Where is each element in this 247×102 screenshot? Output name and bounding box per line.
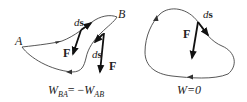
upper-path-direction-arrow-icon (55, 41, 61, 44)
right-caption: W=0 (177, 83, 201, 97)
closed-loop-curve (145, 9, 234, 78)
upper-ds-text: ds (74, 16, 85, 28)
point-a-label: A (14, 34, 23, 48)
work-path-diagram: A B F F WBA= −WAB F W=0 ds ds ds (0, 0, 247, 102)
lower-ds-text: ds (92, 48, 103, 60)
loop-ds-vector-icon (198, 22, 208, 35)
right-diagram: F W=0 (145, 9, 234, 97)
loop-direction-arrow-bottom-icon (187, 75, 193, 80)
upper-force-label: F (63, 46, 70, 60)
left-diagram: A B F F WBA= −WAB (14, 7, 126, 99)
left-caption: WBA= −WAB (48, 83, 104, 99)
loop-ds-text: ds (203, 8, 214, 20)
loop-force-label: F (183, 27, 190, 41)
loop-force-vector-icon (192, 22, 198, 58)
point-b-label: B (118, 7, 126, 21)
lower-force-label: F (109, 59, 116, 73)
lower-path-direction-arrow-icon (66, 70, 72, 75)
upper-force-vector-icon (73, 30, 81, 54)
